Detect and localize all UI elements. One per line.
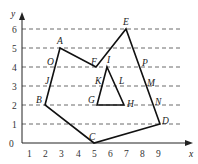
origin-label: 0 [9,139,14,149]
label-C: C [89,132,96,142]
label-A: A [56,36,63,46]
label-P: P [141,58,148,68]
label-H: H [126,99,135,109]
svg-text:2: 2 [12,101,17,111]
y-axis-label: y [10,9,16,19]
label-F: F [90,57,97,67]
point-labels: A B C D E F G H I J K L M N O P [36,17,169,142]
svg-text:4: 4 [76,149,81,159]
svg-text:6: 6 [12,25,17,35]
label-J: J [45,76,50,86]
svg-text:3: 3 [12,82,17,92]
label-G: G [88,95,95,105]
label-M: M [146,78,156,88]
label-O: O [47,57,54,67]
label-K: K [94,76,102,86]
svg-text:9: 9 [156,149,161,159]
label-E: E [122,17,129,27]
svg-text:8: 8 [140,149,145,159]
label-B: B [36,95,42,105]
svg-text:3: 3 [59,149,64,159]
svg-text:4: 4 [12,63,17,73]
svg-text:1: 1 [27,149,32,159]
label-L: L [118,76,124,86]
label-N: N [154,97,162,107]
label-D: D [161,116,169,126]
svg-text:7: 7 [124,149,129,159]
x-tick-labels: 1 2 3 4 5 6 7 8 9 [27,149,161,159]
coordinate-diagram: x y 0 1 2 3 4 5 6 7 8 9 1 2 3 4 5 6 A B … [0,0,198,164]
svg-text:5: 5 [92,149,97,159]
svg-text:2: 2 [43,149,48,159]
svg-text:1: 1 [12,120,17,130]
x-axis-arrow-icon [185,140,193,146]
svg-text:6: 6 [108,149,113,159]
x-axis-label: x [188,149,194,159]
y-tick-labels: 1 2 3 4 5 6 [12,25,17,130]
y-axis-arrow-icon [19,12,25,20]
label-I: I [106,55,111,65]
svg-text:5: 5 [12,44,17,54]
